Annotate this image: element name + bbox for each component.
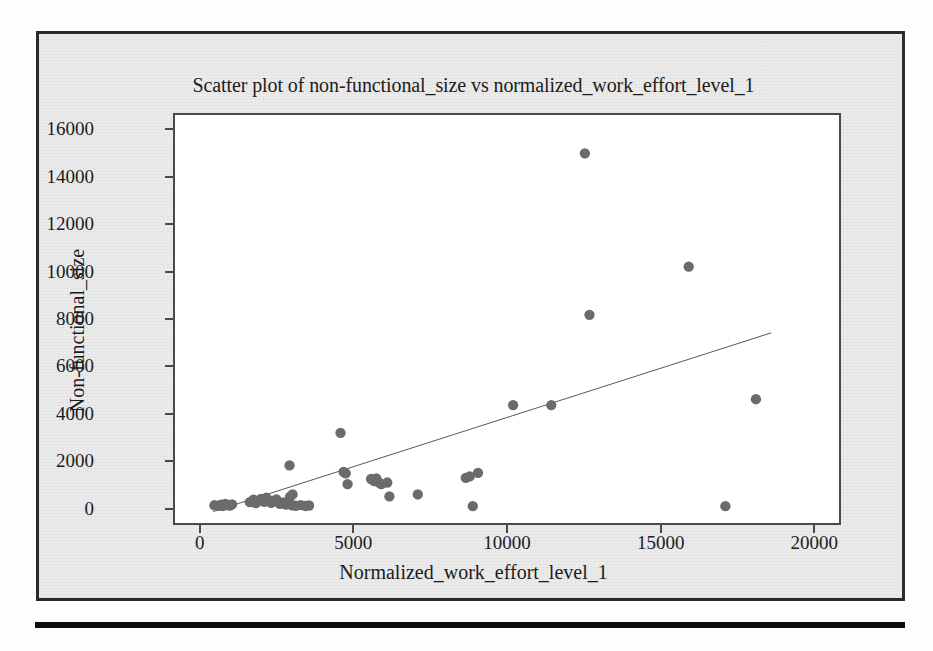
x-tick-mark (199, 525, 201, 533)
scatter-point (580, 148, 590, 158)
trendline (213, 333, 771, 512)
trendline-segment (213, 333, 771, 512)
y-tick-label: 14000 (0, 166, 94, 188)
scatter-point (751, 394, 761, 404)
scatter-point (227, 499, 237, 509)
page-canvas: Scatter plot of non-functional_size vs n… (0, 0, 933, 651)
scatter-point (335, 428, 345, 438)
y-tick-mark (165, 365, 173, 367)
plot-area (173, 113, 841, 525)
y-tick-mark (165, 128, 173, 130)
scatter-point (413, 489, 423, 499)
chart-title: Scatter plot of non-functional_size vs n… (39, 74, 908, 97)
y-tick-mark (165, 508, 173, 510)
y-tick-label: 8000 (0, 308, 94, 330)
scatter-point (284, 460, 294, 470)
scatter-point (546, 400, 556, 410)
scatter-points (209, 148, 761, 511)
x-tick-label: 5000 (283, 532, 423, 554)
y-tick-mark (165, 318, 173, 320)
y-tick-mark (165, 271, 173, 273)
horizontal-rule (35, 622, 905, 628)
scatter-plot-svg (175, 115, 839, 523)
y-tick-mark (165, 176, 173, 178)
scatter-point (287, 489, 297, 499)
y-tick-mark (165, 460, 173, 462)
scatter-point (468, 501, 478, 511)
x-tick-label: 10000 (437, 532, 577, 554)
x-tick-mark (660, 525, 662, 533)
x-tick-mark (506, 525, 508, 533)
x-axis-title: Normalized_work_effort_level_1 (39, 561, 908, 584)
x-tick-mark (352, 525, 354, 533)
y-tick-label: 10000 (0, 261, 94, 283)
x-tick-label: 15000 (591, 532, 731, 554)
x-tick-mark (813, 525, 815, 533)
scatter-point (720, 501, 730, 511)
x-tick-label: 20000 (744, 532, 884, 554)
scatter-point (584, 310, 594, 320)
scatter-point (508, 400, 518, 410)
scatter-point (684, 262, 694, 272)
y-tick-label: 0 (0, 498, 94, 520)
y-tick-label: 2000 (0, 450, 94, 472)
y-tick-label: 16000 (0, 118, 94, 140)
scatter-point (382, 477, 392, 487)
y-tick-label: 12000 (0, 213, 94, 235)
y-tick-mark (165, 413, 173, 415)
figure-panel: Scatter plot of non-functional_size vs n… (36, 31, 905, 601)
scatter-point (342, 479, 352, 489)
y-tick-label: 6000 (0, 355, 94, 377)
scatter-point (384, 491, 394, 501)
x-tick-label: 0 (130, 532, 270, 554)
scatter-point (473, 468, 483, 478)
y-tick-label: 4000 (0, 403, 94, 425)
y-tick-mark (165, 223, 173, 225)
scatter-point (341, 468, 351, 478)
scatter-point (304, 500, 314, 510)
